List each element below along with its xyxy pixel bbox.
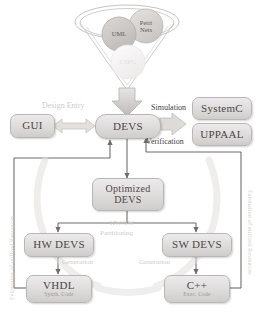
node-optimized-devs[interactable]: Optimized DEVS bbox=[92, 178, 164, 211]
node-devs[interactable]: DEVS bbox=[95, 114, 161, 139]
uml-label: UML bbox=[112, 31, 126, 38]
node-cpp-label: C++ bbox=[187, 280, 208, 292]
label-feedback-right: Estimation of utilized Resources bbox=[247, 190, 253, 275]
csfg-label: CSFG bbox=[120, 59, 136, 66]
node-sw-devs-label: SW DEVS bbox=[172, 239, 222, 251]
label-partitioning-line2: Partitioning bbox=[100, 229, 133, 237]
node-gui-label: GUI bbox=[22, 120, 42, 132]
node-devs-label: DEVS bbox=[113, 121, 143, 133]
node-optimized-devs-label-2: DEVS bbox=[114, 195, 141, 206]
label-partitioning-line1: HW/SW bbox=[110, 219, 134, 227]
funnel-output-arrow bbox=[112, 88, 142, 116]
node-systemc-label: SystemC bbox=[201, 103, 243, 115]
label-generation-right: Generation bbox=[139, 258, 170, 266]
label-verification: Verification bbox=[146, 137, 184, 146]
node-uppaal-label: UPPAAL bbox=[200, 129, 244, 141]
label-generation-left: Generation bbox=[62, 258, 93, 266]
petri-nets-label-wrap: PetriNets bbox=[129, 9, 163, 43]
node-sw-devs[interactable]: SW DEVS bbox=[162, 233, 232, 257]
node-vhdl-label: VHDL bbox=[43, 280, 75, 292]
node-hw-devs-label: HW DEVS bbox=[33, 239, 85, 251]
design-entry-arrow bbox=[53, 119, 95, 133]
label-feedback-left: Estimation of utilized Resources bbox=[9, 215, 15, 300]
node-cpp-sublabel: Exec. Code bbox=[183, 292, 210, 298]
node-gui[interactable]: GUI bbox=[10, 114, 55, 138]
node-vhdl-sublabel: Synth. Code bbox=[44, 292, 73, 298]
node-cpp[interactable]: C++ Exec. Code bbox=[164, 275, 230, 303]
node-uppaal[interactable]: UPPAAL bbox=[192, 123, 252, 146]
label-design-entry: Design Entry bbox=[42, 101, 84, 110]
node-optimized-devs-label-1: Optimized bbox=[106, 184, 151, 195]
petri-nets-label: PetriNets bbox=[140, 19, 152, 34]
node-systemc[interactable]: SystemC bbox=[192, 97, 252, 120]
node-hw-devs[interactable]: HW DEVS bbox=[24, 233, 94, 257]
node-vhdl[interactable]: VHDL Synth. Code bbox=[26, 275, 92, 303]
label-simulation: Simulation bbox=[151, 103, 186, 112]
csfg-label-wrap: CSFG bbox=[111, 45, 145, 79]
